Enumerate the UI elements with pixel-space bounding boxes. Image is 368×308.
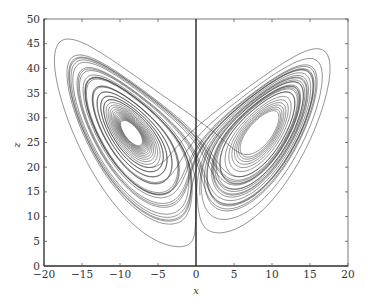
y-axis-label: z <box>11 142 22 149</box>
y-tick-label: 20 <box>27 161 40 173</box>
y-tick-label: 45 <box>27 37 40 49</box>
x-tick-label: 10 <box>265 268 278 280</box>
y-tick-label: 50 <box>27 13 40 25</box>
x-axis-label: x <box>193 285 199 296</box>
y-tick-label: 35 <box>27 87 40 99</box>
x-tick-label: −10 <box>109 268 131 280</box>
axis-ticks: −20−15−10−50510152005101520253035404550 <box>27 13 355 281</box>
x-tick-label: −5 <box>150 268 165 280</box>
y-tick-label: 15 <box>27 185 40 197</box>
x-tick-label: 5 <box>231 268 238 280</box>
x-tick-label: 15 <box>303 268 316 280</box>
trajectory-line <box>54 39 330 247</box>
y-tick-label: 40 <box>27 62 40 74</box>
y-tick-label: 5 <box>33 235 40 247</box>
lorenz-chart: −20−15−10−50510152005101520253035404550 … <box>0 0 368 308</box>
y-tick-label: 30 <box>27 111 40 123</box>
x-tick-label: −15 <box>71 268 93 280</box>
x-tick-label: 0 <box>193 268 200 280</box>
x-tick-label: 20 <box>341 268 354 280</box>
y-tick-label: 0 <box>33 260 40 272</box>
y-tick-label: 10 <box>27 210 40 222</box>
y-tick-label: 25 <box>27 136 40 148</box>
